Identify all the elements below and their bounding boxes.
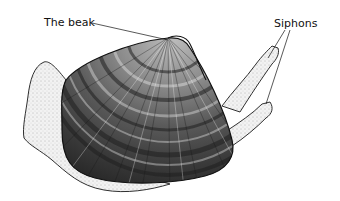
beak-label: The beak [44,16,95,29]
beak-leader-line [92,23,168,40]
siphons-label: Siphons [274,17,317,30]
clam-illustration [0,0,340,201]
